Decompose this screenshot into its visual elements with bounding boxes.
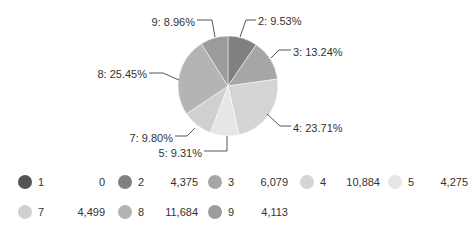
legend-item-5[interactable]: 5 4,275 — [388, 175, 473, 189]
leader-line-9 — [197, 20, 215, 37]
legend-label: 4 — [320, 176, 330, 188]
legend-value: 11,684 — [148, 206, 198, 218]
legend-item-8[interactable]: 8 11,684 — [118, 205, 208, 219]
legend-item-2[interactable]: 2 4,375 — [118, 175, 208, 189]
slice-label: 5: 9.31% — [159, 147, 203, 159]
legend-label: 5 — [408, 176, 418, 188]
legend-value: 4,113 — [238, 206, 288, 218]
legend-row-1: 1 0 2 4,375 3 6,079 4 10,884 5 4,275 — [18, 174, 473, 190]
leader-line-2 — [240, 20, 256, 37]
legend-value: 6,079 — [238, 176, 288, 188]
legend-label: 8 — [138, 206, 148, 218]
pie-chart: 2: 9.53%3: 13.24%4: 23.71%5: 9.31%7: 9.8… — [0, 0, 449, 170]
legend-swatch — [18, 175, 32, 189]
legend-swatch — [18, 205, 32, 219]
leader-line-4 — [267, 114, 291, 126]
legend-item-7[interactable]: 7 4,499 — [18, 205, 111, 219]
legend-label: 9 — [228, 206, 238, 218]
legend-swatch — [300, 175, 314, 189]
legend-swatch — [388, 175, 402, 189]
leader-line-8 — [149, 73, 179, 80]
legend-item-4[interactable]: 4 10,884 — [300, 175, 388, 189]
legend-label: 1 — [38, 176, 48, 188]
leader-line-7 — [175, 128, 195, 136]
legend-value: 0 — [48, 176, 105, 188]
legend-swatch — [118, 205, 132, 219]
legend-item-1[interactable]: 1 0 — [18, 175, 111, 189]
legend-item-3[interactable]: 3 6,079 — [208, 175, 298, 189]
legend-value: 4,275 — [418, 176, 468, 188]
slice-label: 4: 23.71% — [293, 122, 343, 134]
legend-swatch — [118, 175, 132, 189]
legend-value: 10,884 — [330, 176, 380, 188]
slice-label: 2: 9.53% — [258, 15, 302, 27]
legend-swatch — [208, 205, 222, 219]
slice-label: 7: 9.80% — [130, 132, 174, 144]
leader-line-3 — [271, 50, 291, 58]
slice-label: 8: 25.45% — [97, 68, 147, 80]
slice-label: 3: 13.24% — [293, 46, 343, 58]
legend-label: 3 — [228, 176, 238, 188]
legend-item-9[interactable]: 9 4,113 — [208, 205, 298, 219]
leader-line-5 — [204, 136, 227, 151]
legend-label: 7 — [38, 206, 48, 218]
legend-swatch — [208, 175, 222, 189]
slice-label: 9: 8.96% — [152, 16, 196, 28]
legend-value: 4,375 — [148, 176, 198, 188]
legend-value: 4,499 — [48, 206, 105, 218]
legend-label: 2 — [138, 176, 148, 188]
legend-row-2: 7 4,499 8 11,684 9 4,113 — [18, 204, 298, 220]
